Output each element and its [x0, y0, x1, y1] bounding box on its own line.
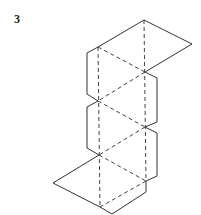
octahedron-net-diagram	[0, 0, 201, 215]
fold-line	[98, 72, 145, 101]
fold-line	[99, 127, 145, 155]
fold-line	[100, 181, 146, 207]
fold-line	[99, 155, 146, 181]
fold-lines	[98, 20, 146, 207]
fold-line	[98, 47, 100, 207]
fold-line	[98, 101, 145, 127]
fold-line	[144, 20, 146, 181]
net-outline	[53, 20, 192, 214]
fold-line	[98, 47, 145, 72]
